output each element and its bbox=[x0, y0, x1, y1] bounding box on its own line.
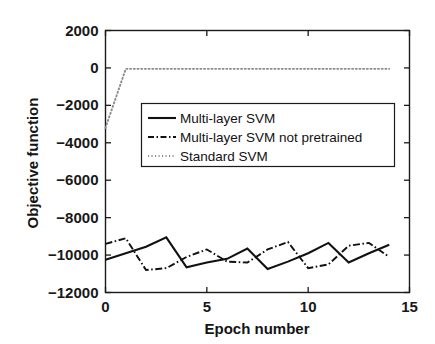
x-tick-label: 15 bbox=[401, 298, 418, 315]
y-tick-label: −2000 bbox=[56, 96, 98, 113]
x-axis-title: Epoch number bbox=[204, 320, 309, 337]
y-tick-label: −8000 bbox=[56, 209, 98, 226]
legend-item-multi-layer-svm-not-pretrained[interactable]: Multi-layer SVM not pretrained bbox=[148, 130, 362, 145]
x-tick-label: 5 bbox=[203, 298, 211, 315]
y-tick-label: 0 bbox=[90, 59, 98, 76]
y-tick-label: −12000 bbox=[48, 284, 98, 301]
legend-label-multi-layer-svm-not-pretrained: Multi-layer SVM not pretrained bbox=[180, 130, 362, 145]
x-tick-label: 0 bbox=[101, 298, 109, 315]
y-axis-title: Objective function bbox=[24, 98, 41, 229]
legend-label-standard-svm: Standard SVM bbox=[180, 149, 268, 164]
objective-function-line-chart: 20000−2000−4000−6000−8000−10000−12000 05… bbox=[0, 0, 435, 344]
y-tick-label: −4000 bbox=[56, 134, 98, 151]
y-tick-label: −6000 bbox=[56, 171, 98, 188]
y-tick-label: −10000 bbox=[48, 246, 98, 263]
y-tick-label: 2000 bbox=[65, 22, 98, 39]
chart-legend: Multi-layer SVM Multi-layer SVM not pret… bbox=[142, 104, 395, 167]
legend-label-multi-layer-svm: Multi-layer SVM bbox=[180, 111, 275, 126]
chart-figure: 20000−2000−4000−6000−8000−10000−12000 05… bbox=[0, 0, 435, 344]
x-tick-label: 10 bbox=[300, 298, 317, 315]
